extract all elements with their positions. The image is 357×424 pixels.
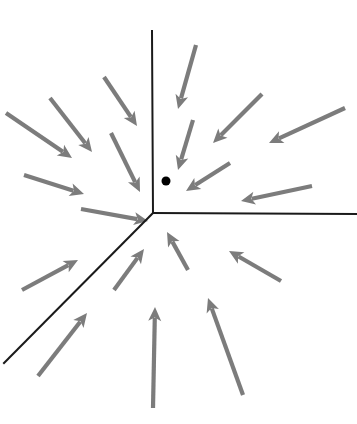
ray-right xyxy=(153,213,357,214)
vector-field-canvas xyxy=(0,0,357,424)
figure-background xyxy=(0,0,357,424)
equilibrium-dot-layer xyxy=(162,177,171,186)
vector-field-figure xyxy=(0,0,357,424)
ray-up xyxy=(152,31,153,213)
equilibrium-dot xyxy=(162,177,171,186)
arrow-lc-3-shaft xyxy=(153,318,155,408)
